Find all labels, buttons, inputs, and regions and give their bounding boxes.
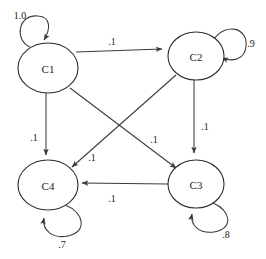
node-c1-label: C1	[42, 63, 55, 75]
self-loop-c1: 1.0	[14, 10, 49, 48]
edge-c1-c3-path	[70, 88, 176, 168]
self-loop-c1-weight: 1.0	[14, 10, 27, 21]
self-loop-c1-path	[20, 16, 48, 47]
node-c3[interactable]: C3	[168, 160, 224, 208]
edge-c1-c3: .1	[70, 88, 176, 168]
edge-c3-c4-weight: .1	[108, 193, 116, 204]
self-loop-c4-weight: .7	[58, 239, 66, 250]
edge-c2-c4-weight: .1	[88, 152, 96, 163]
edge-c1-c3-weight: .1	[150, 134, 158, 145]
self-loop-c3-weight: .8	[222, 229, 230, 240]
edge-c2-c3-weight: .1	[201, 121, 209, 132]
graph-canvas: 1.0 .9 .7 .8 .1 .1 .1 .1	[0, 0, 266, 259]
self-loop-c2-weight: .9	[247, 38, 255, 49]
edge-c1-c4-weight: .1	[30, 132, 38, 143]
edge-c1-c2: .1	[76, 36, 162, 53]
node-c4[interactable]: C4	[18, 160, 78, 210]
edge-c1-c2-weight: .1	[108, 36, 116, 47]
node-c2[interactable]: C2	[168, 32, 224, 80]
node-c2-label: C2	[190, 51, 203, 63]
node-c1[interactable]: C1	[18, 43, 78, 93]
edge-c3-c4: .1	[82, 183, 168, 204]
edge-c1-c4: .1	[30, 93, 46, 155]
edge-c3-c4-path	[82, 183, 168, 184]
edge-c2-c3: .1	[194, 80, 209, 153]
node-c4-label: C4	[42, 180, 55, 192]
edge-c1-c2-path	[76, 49, 162, 52]
node-c3-label: C3	[190, 179, 203, 191]
self-loop-c4: .7	[44, 205, 81, 250]
transition-diagram: 1.0 .9 .7 .8 .1 .1 .1 .1	[0, 0, 266, 259]
edge-c2-c4: .1	[72, 75, 176, 167]
